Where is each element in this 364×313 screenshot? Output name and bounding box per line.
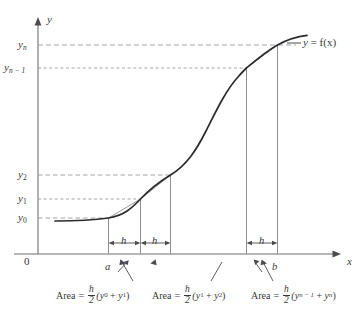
h3-arrowhead-right [272, 241, 278, 246]
chord-y0-y1 [109, 199, 141, 218]
curve-label-rhs: f(x) [320, 36, 337, 48]
formula-2-fraction: h 2 [184, 285, 191, 306]
y-tick-label-y1: y1 [18, 193, 27, 205]
formula-1-term1-subscript: 0 [104, 292, 107, 299]
dashed-level-lines [38, 45, 296, 218]
formula-1-word: Area [56, 291, 75, 301]
interval-label-h3: h [259, 236, 264, 247]
formula-3-fraction: h 2 [283, 285, 290, 306]
formula-2-numerator: h [184, 285, 191, 296]
x-axis-arrowhead [333, 251, 342, 258]
h2-arrowhead-right [165, 241, 171, 246]
formula-2-denominator: 2 [185, 296, 190, 306]
formula-3-word: Area [251, 291, 270, 301]
formula-1-plus: + [110, 291, 116, 301]
chord-lines-group [109, 45, 278, 218]
endpoint-label-b: b [272, 262, 277, 273]
y2-subscript: 2 [23, 173, 27, 182]
interval-label-h1: h [121, 236, 126, 247]
ordinate-lines-group [109, 45, 278, 254]
formula-3-term1-subscript: n − 1 [299, 292, 314, 299]
formula-2-plus: + [206, 291, 212, 301]
formula-2-word: Area [152, 291, 171, 301]
h-measure-arrows-group [109, 241, 278, 246]
leader-arrow-2-head [150, 259, 156, 265]
y-tick-label-yn-1: yn − 1 [4, 62, 25, 74]
origin-label: 0 [24, 256, 30, 267]
formula-3-close-paren: ) [332, 291, 335, 301]
y-tick-label-y0: y0 [18, 212, 27, 224]
y-axis-arrowhead [35, 17, 42, 26]
curve-label-equals: = [311, 36, 317, 48]
endpoint-label-a: a [105, 262, 110, 273]
formula-area-last-trapezoid: Area = h 2 ( yn − 1 + yn ) [251, 285, 336, 306]
formula-1-fraction: h 2 [88, 285, 95, 306]
curve-label-lhs: y [303, 36, 308, 48]
leader-arrow-4-head [261, 259, 267, 265]
x-axis-label: x [347, 256, 352, 267]
formula-1-close-paren: ) [126, 291, 129, 301]
formula-3-numerator: h [283, 285, 290, 296]
trapezoidal-rule-figure: y x 0 yn yn − 1 y2 y1 y0 y = f(x) a b h … [0, 0, 364, 313]
yn1-subscript: n − 1 [9, 66, 25, 75]
leader-arrow-3-line [218, 262, 228, 280]
formula-2-equals: = [174, 291, 180, 301]
yn-subscript: n [23, 43, 27, 52]
h1-arrowhead-right [135, 241, 141, 246]
h1-arrowhead-left [109, 241, 115, 246]
leader-arrow-2-line [211, 262, 222, 281]
y-tick-label-yn: yn [18, 39, 27, 51]
y-tick-label-y2: y2 [18, 169, 27, 181]
curve-path [55, 35, 307, 221]
leader-arrow-2b-line [157, 262, 166, 281]
y-axis-label: y [47, 14, 52, 25]
formula-3-equals: = [273, 291, 279, 301]
caption-leader-arrows-group [119, 259, 273, 281]
formula-area-first-trapezoid: Area = h 2 ( y0 + y1 ) [56, 285, 129, 306]
h3-arrowhead-left [247, 241, 253, 246]
formula-2-term1-subscript: 1 [200, 292, 203, 299]
formula-3-denominator: 2 [284, 296, 289, 306]
formula-1-denominator: 2 [89, 296, 94, 306]
y0-subscript: 0 [23, 216, 27, 225]
formula-1-equals: = [78, 291, 84, 301]
function-curve-group [55, 35, 307, 221]
h2-arrowhead-left [141, 241, 147, 246]
endpoint-leader-marks [118, 260, 262, 272]
interval-label-h2: h [152, 236, 157, 247]
y1-subscript: 1 [23, 197, 27, 206]
formula-2-close-paren: ) [222, 291, 225, 301]
formula-3-plus: + [316, 291, 322, 301]
formula-1-numerator: h [88, 285, 95, 296]
formula-area-second-trapezoid: Area = h 2 ( y1 + y2 ) [152, 285, 225, 306]
curve-label: y = f(x) [303, 37, 336, 48]
